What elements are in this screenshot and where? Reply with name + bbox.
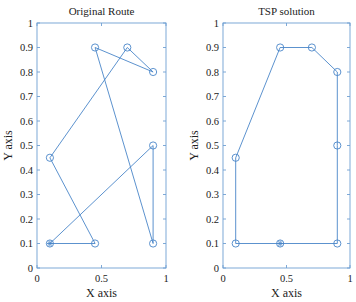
y-axis-label: Y axis (187, 130, 201, 161)
route-line (50, 48, 153, 244)
y-axis-label: Y axis (1, 130, 15, 161)
y-tick-label: 0.2 (206, 214, 219, 225)
x-tick-label: 0.5 (95, 273, 108, 284)
y-tick-label: 0.1 (20, 238, 33, 249)
y-tick-label: 0.7 (206, 91, 219, 102)
y-tick-label: 0 (28, 263, 33, 274)
figure: 00.10.20.30.40.50.60.70.80.9100.51Origin… (0, 0, 356, 302)
y-tick-label: 0.5 (20, 140, 33, 151)
axes-frame (37, 23, 166, 268)
y-tick-label: 0 (214, 263, 219, 274)
start-point-star-icon (47, 241, 53, 247)
y-tick-label: 0.9 (206, 42, 219, 53)
y-tick-label: 0.3 (20, 189, 33, 200)
y-tick-label: 0.2 (20, 214, 33, 225)
y-tick-label: 0.6 (206, 116, 219, 127)
y-tick-label: 0.3 (206, 189, 219, 200)
y-tick-label: 1 (214, 18, 219, 29)
x-tick-label: 1 (347, 273, 352, 284)
y-tick-label: 0.5 (206, 140, 219, 151)
y-tick-label: 0.6 (20, 116, 33, 127)
x-axis-label: X axis (86, 286, 117, 300)
y-tick-label: 0.4 (20, 165, 34, 176)
axes-frame (223, 23, 350, 268)
y-tick-label: 0.7 (20, 91, 33, 102)
y-tick-label: 0.8 (20, 67, 33, 78)
plot-original-route: 00.10.20.30.40.50.60.70.80.9100.51Origin… (1, 5, 169, 300)
y-tick-label: 0.9 (20, 42, 33, 53)
y-tick-label: 0.4 (206, 165, 220, 176)
y-tick-label: 0.1 (206, 238, 219, 249)
y-tick-label: 1 (28, 18, 33, 29)
chart-title: Original Route (69, 5, 135, 17)
y-tick-label: 0.8 (206, 67, 219, 78)
x-tick-label: 0 (220, 273, 225, 284)
start-point-star-icon (277, 241, 283, 247)
x-axis-label: X axis (271, 286, 302, 300)
chart-title: TSP solution (258, 5, 315, 17)
x-tick-label: 0.5 (280, 273, 293, 284)
x-tick-label: 0 (34, 273, 39, 284)
x-tick-label: 1 (163, 273, 168, 284)
route-line (236, 48, 338, 244)
plot-tsp-solution: 00.10.20.30.40.50.60.70.80.9100.51TSP so… (187, 5, 353, 300)
